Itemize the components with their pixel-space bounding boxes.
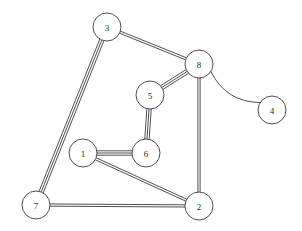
graph-svg: 12345678 bbox=[0, 0, 302, 231]
graph-diagram: 12345678 bbox=[0, 0, 302, 231]
node-label-3: 3 bbox=[105, 23, 110, 33]
edge-5-6 bbox=[145, 109, 151, 139]
node-1[interactable]: 1 bbox=[69, 139, 97, 167]
node-6[interactable]: 6 bbox=[132, 139, 160, 167]
edge-5-8 bbox=[161, 70, 189, 90]
node-label-1: 1 bbox=[81, 149, 86, 159]
edge-line bbox=[50, 204, 185, 205]
node-5[interactable]: 5 bbox=[136, 81, 164, 109]
edge-line bbox=[120, 31, 186, 58]
edges-layer bbox=[39, 31, 260, 207]
node-label-4: 4 bbox=[270, 106, 275, 116]
edge-7-2 bbox=[50, 204, 185, 207]
node-label-8: 8 bbox=[197, 60, 202, 70]
edge-line bbox=[211, 71, 260, 102]
edge-3-7 bbox=[39, 39, 104, 193]
edge-8-4 bbox=[211, 71, 260, 102]
edge-line bbox=[162, 71, 187, 87]
edge-line bbox=[145, 109, 147, 139]
node-8[interactable]: 8 bbox=[185, 50, 213, 78]
edge-8-2 bbox=[198, 78, 200, 192]
edge-1-6 bbox=[97, 151, 132, 155]
edge-line bbox=[50, 206, 185, 207]
node-label-5: 5 bbox=[148, 91, 153, 101]
node-2[interactable]: 2 bbox=[185, 192, 213, 220]
edge-line bbox=[147, 109, 149, 139]
node-label-6: 6 bbox=[144, 149, 149, 159]
node-4[interactable]: 4 bbox=[258, 96, 286, 124]
node-3[interactable]: 3 bbox=[93, 13, 121, 41]
node-label-2: 2 bbox=[197, 202, 202, 212]
edge-line bbox=[43, 41, 104, 193]
edge-line bbox=[149, 109, 151, 139]
node-label-7: 7 bbox=[34, 201, 39, 211]
edge-line bbox=[41, 40, 102, 192]
edge-line bbox=[120, 33, 186, 60]
node-7[interactable]: 7 bbox=[22, 191, 50, 219]
edge-line bbox=[39, 39, 100, 191]
edge-3-8 bbox=[120, 31, 187, 60]
nodes-layer: 12345678 bbox=[22, 13, 286, 220]
